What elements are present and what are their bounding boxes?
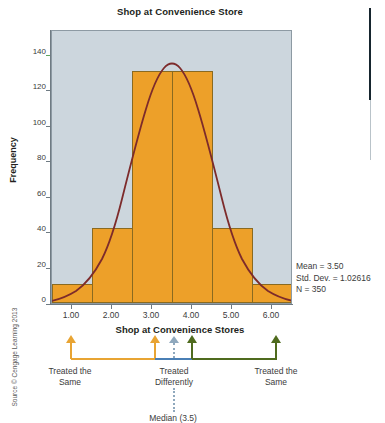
median-dotted-line-lower bbox=[173, 388, 175, 412]
green-bracket-left-stem bbox=[191, 341, 193, 359]
y-tick-label: 100 bbox=[20, 118, 46, 127]
stat-n: N = 350 bbox=[296, 284, 371, 296]
x-tick-label: 4.00 bbox=[171, 310, 211, 320]
annotation-label-middle-line1: Treated bbox=[138, 366, 210, 377]
source-credit: Source © Cengage Learning 2013 bbox=[11, 311, 18, 407]
x-tick-label: 5.00 bbox=[211, 310, 251, 320]
y-tick-label: 20 bbox=[20, 260, 46, 269]
stats-block: Mean = 3.50 Std. Dev. = 1.02616 N = 350 bbox=[296, 261, 371, 296]
annotation-label-left: Treated the Same bbox=[28, 366, 112, 388]
x-tick-label: 2.00 bbox=[91, 310, 131, 320]
blue-bracket-line bbox=[155, 358, 192, 360]
x-tick-mark bbox=[191, 304, 192, 309]
green-arrow-right-head bbox=[271, 335, 281, 343]
annotation-label-right-line2: Same bbox=[234, 377, 318, 388]
median-label: Median (3.5) bbox=[133, 413, 213, 423]
annotation-label-right-line1: Treated the bbox=[234, 366, 318, 377]
annotation-label-middle: Treated Differently bbox=[138, 366, 210, 388]
plot-inner bbox=[52, 31, 291, 303]
x-axis-line bbox=[51, 304, 293, 305]
x-tick-mark bbox=[231, 304, 232, 309]
annotation-label-middle-line2: Differently bbox=[138, 377, 210, 388]
orange-bracket-left-stem bbox=[70, 341, 72, 359]
figure-root: Shop at Convenience Store Frequency 0 20… bbox=[0, 0, 385, 423]
page-edge-artifact-lower bbox=[370, 100, 371, 160]
green-arrow-left-head bbox=[187, 335, 197, 343]
orange-arrow-right-head bbox=[150, 335, 160, 343]
green-bracket-right-stem bbox=[275, 341, 277, 359]
annotation-label-left-line2: Same bbox=[28, 377, 112, 388]
y-tick-label: 80 bbox=[20, 153, 46, 162]
orange-bracket-line bbox=[71, 358, 156, 360]
orange-bracket-right-stem bbox=[154, 341, 156, 359]
y-tick-label: 0 bbox=[20, 295, 46, 304]
median-dotted-line-upper bbox=[173, 343, 175, 358]
normal-distribution-curve bbox=[52, 31, 292, 304]
plot-area bbox=[51, 30, 292, 304]
x-tick-label: 1.00 bbox=[51, 310, 91, 320]
x-tick-mark bbox=[271, 304, 272, 309]
green-bracket-line bbox=[192, 358, 277, 360]
x-tick-mark bbox=[111, 304, 112, 309]
y-tick-label: 120 bbox=[20, 82, 46, 91]
annotation-label-right: Treated the Same bbox=[234, 366, 318, 388]
median-arrow-head bbox=[169, 336, 179, 343]
x-tick-label: 3.00 bbox=[131, 310, 171, 320]
chart-title: Shop at Convenience Store bbox=[60, 6, 300, 17]
page-edge-artifact bbox=[369, 8, 371, 100]
x-tick-mark bbox=[71, 304, 72, 309]
annotation-label-left-line1: Treated the bbox=[28, 366, 112, 377]
stat-mean: Mean = 3.50 bbox=[296, 261, 371, 273]
x-tick-label: 6.00 bbox=[251, 310, 291, 320]
y-tick-label: 140 bbox=[20, 47, 46, 56]
x-tick-mark bbox=[151, 304, 152, 309]
stat-std-dev: Std. Dev. = 1.02616 bbox=[296, 273, 371, 285]
annotation-layer: Treated the Same Treated Differently Med… bbox=[0, 330, 385, 423]
orange-arrow-left-head bbox=[66, 335, 76, 343]
y-tick-label: 60 bbox=[20, 189, 46, 198]
y-tick-label: 40 bbox=[20, 224, 46, 233]
